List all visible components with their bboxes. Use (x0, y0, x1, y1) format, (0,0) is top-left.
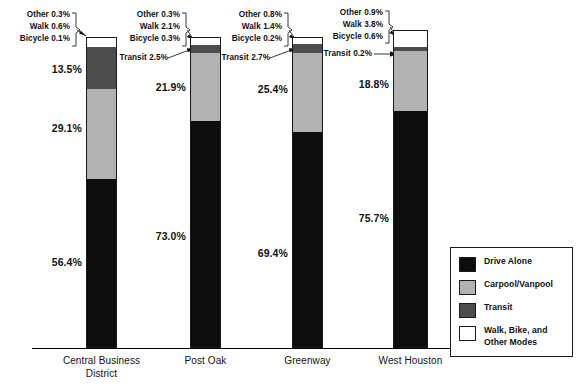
callout-block-west-houston: Other 0.9% Walk 3.8% Bicycle 0.6% (315, 7, 383, 43)
legend-item-carpool-vanpool[interactable]: Carpool/Vanpool (459, 279, 566, 295)
legend-label-walk-bike-other: Walk, Bike, and Other Modes (484, 325, 547, 348)
value-label-carpool-west-houston: 18.8% (321, 78, 389, 90)
chart-legend: Drive Alone Carpool/Vanpool Transit Walk… (450, 247, 573, 357)
value-label-drive-west-houston: 75.7% (321, 212, 389, 224)
callout-block-greenway: Other 0.8% Walk 1.4% Bicycle 0.2% (214, 9, 282, 45)
callout-block-post-oak: Other 0.3% Walk 2.1% Bicycle 0.3% (112, 9, 180, 45)
legend-swatch-transit (459, 303, 476, 318)
segment-transit-post-oak[interactable] (190, 45, 221, 53)
stacked-bar-chart: Other 0.3% Walk 0.6% Bicycle 0.1% 13.5% … (0, 0, 583, 390)
bar-post-oak[interactable] (190, 37, 221, 348)
value-label-transit-cbd: 13.5% (14, 63, 82, 75)
plot-area: Other 0.3% Walk 0.6% Bicycle 0.1% 13.5% … (0, 0, 583, 390)
category-label-central-business-district: Central Business District (51, 354, 152, 380)
legend-label-drive-alone: Drive Alone (484, 256, 532, 268)
callout-transit-west-houston: Transit 0.2% (308, 49, 372, 58)
legend-item-drive-alone[interactable]: Drive Alone (459, 256, 566, 272)
legend-label-carpool-vanpool: Carpool/Vanpool (484, 279, 553, 291)
callout-bicycle-west-houston: Bicycle 0.6% (315, 31, 383, 43)
segment-walk-bike-other-west-houston[interactable] (393, 30, 428, 47)
segment-drive-alone-west-houston[interactable] (393, 111, 428, 348)
bar-west-houston[interactable] (393, 30, 428, 348)
callout-other-cbd: Other 0.3% (2, 9, 70, 21)
value-label-carpool-post-oak: 21.9% (118, 81, 186, 93)
callout-walk-greenway: Walk 1.4% (214, 21, 282, 33)
segment-carpool-west-houston[interactable] (393, 51, 428, 111)
legend-item-transit[interactable]: Transit (459, 302, 566, 318)
value-label-carpool-cbd: 29.1% (14, 122, 82, 134)
callout-other-greenway: Other 0.8% (214, 9, 282, 21)
category-label-greenway: Greenway (260, 354, 355, 367)
value-label-drive-greenway: 69.4% (220, 247, 288, 259)
callout-bicycle-cbd: Bicycle 0.1% (2, 33, 70, 45)
callout-transit-greenway: Transit 2.7% (206, 53, 270, 62)
category-label-west-houston: West Houston (363, 354, 458, 367)
value-label-drive-post-oak: 73.0% (118, 230, 186, 242)
callout-bicycle-greenway: Bicycle 0.2% (214, 33, 282, 45)
segment-carpool-post-oak[interactable] (190, 53, 221, 121)
bar-central-business-district[interactable] (86, 37, 117, 348)
category-label-post-oak: Post Oak (158, 354, 253, 367)
legend-swatch-walk-bike-other (459, 326, 476, 341)
callout-walk-west-houston: Walk 3.8% (315, 19, 383, 31)
legend-swatch-drive-alone (459, 257, 476, 272)
segment-drive-alone-greenway[interactable] (292, 132, 323, 348)
callout-walk-post-oak: Walk 2.1% (112, 21, 180, 33)
bar-greenway[interactable] (292, 37, 323, 348)
segment-drive-alone-cbd[interactable] (86, 179, 117, 348)
segment-carpool-cbd[interactable] (86, 89, 117, 180)
segment-carpool-greenway[interactable] (292, 53, 323, 132)
legend-swatch-carpool-vanpool (459, 280, 476, 295)
value-label-drive-cbd: 56.4% (14, 256, 82, 268)
callout-block-cbd: Other 0.3% Walk 0.6% Bicycle 0.1% (2, 9, 70, 45)
callout-walk-cbd: Walk 0.6% (2, 21, 70, 33)
callout-other-post-oak: Other 0.3% (112, 9, 180, 21)
callout-other-west-houston: Other 0.9% (315, 7, 383, 19)
callout-bicycle-post-oak: Bicycle 0.3% (112, 33, 180, 45)
legend-item-walk-bike-other[interactable]: Walk, Bike, and Other Modes (459, 325, 566, 348)
value-label-carpool-greenway: 25.4% (220, 83, 288, 95)
callout-transit-post-oak: Transit 2.5% (104, 53, 168, 62)
x-axis-line (32, 348, 470, 349)
segment-drive-alone-post-oak[interactable] (190, 121, 221, 348)
legend-label-transit: Transit (484, 302, 513, 314)
